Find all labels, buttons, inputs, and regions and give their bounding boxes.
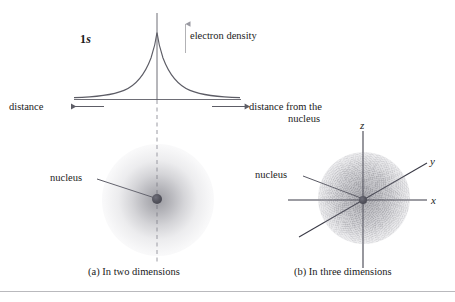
panel-a-nucleus-label: nucleus — [50, 172, 82, 184]
orbital-label: 1s — [80, 32, 91, 47]
distance-from-nucleus-line1: distance from the — [249, 101, 322, 112]
nucleus-dot-3d — [359, 196, 367, 204]
distance-label: distance — [9, 101, 43, 113]
orbital-label-letter: s — [86, 32, 91, 46]
panel-a-caption: (a) In two dimensions — [88, 266, 180, 277]
electron-density-label: electron density — [190, 30, 257, 42]
bottom-divider — [0, 291, 455, 292]
figure-vector-layer — [0, 0, 455, 302]
axis-z-label: z — [360, 119, 364, 131]
panel-b-nucleus-label: nucleus — [255, 169, 287, 181]
electron-density-figure: 1s electron density distance distance fr… — [0, 0, 455, 302]
distance-from-nucleus-label: distance from thenucleus — [249, 101, 359, 125]
panel-b-caption: (b) In three dimensions — [294, 266, 392, 277]
axis-y-label: y — [430, 155, 435, 167]
distance-from-nucleus-line2: nucleus — [249, 113, 385, 125]
nucleus-dot-2d — [152, 194, 162, 204]
axis-x-label: x — [431, 194, 436, 206]
